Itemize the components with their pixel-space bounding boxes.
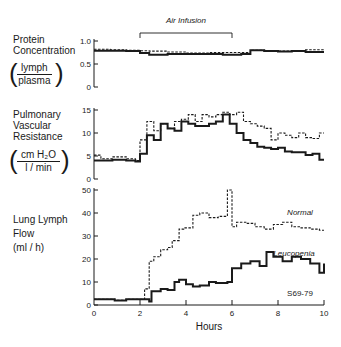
middle-leucopenia-line xyxy=(94,115,324,162)
bottom-ytick-label: 10 xyxy=(82,278,91,287)
xtick-label: 2 xyxy=(138,309,143,318)
tick-labels: 00.51.0051015010203040500246810 xyxy=(80,37,329,318)
air-infusion-label: Air Infusion xyxy=(165,16,207,25)
middle-ytick-label: 5 xyxy=(87,152,92,161)
top-leucopenia-line xyxy=(94,50,324,55)
chart-canvas: 00.51.0051015010203040500246810 Air Infu… xyxy=(0,0,341,347)
middle-ytick-label: 10 xyxy=(82,129,91,138)
bottom-ytick-label: 50 xyxy=(82,186,91,195)
air-infusion-bracket xyxy=(140,33,232,38)
bottom-ytick-label: 30 xyxy=(82,232,91,241)
xtick-label: 4 xyxy=(184,309,189,318)
leucopenia-legend-label: Leucopenia xyxy=(273,249,315,258)
bottom-ytick-label: 20 xyxy=(82,255,91,264)
xtick-label: 8 xyxy=(276,309,281,318)
series-lines xyxy=(94,49,324,301)
bottom-ytick-label: 40 xyxy=(82,209,91,218)
xtick-label: 10 xyxy=(320,309,329,318)
x-axis-title: Hours xyxy=(196,321,223,332)
axes xyxy=(94,39,324,305)
xtick-label: 0 xyxy=(92,309,97,318)
top-ytick-label: 0.5 xyxy=(80,60,92,69)
middle-ytick-label: 0 xyxy=(87,175,92,184)
top-ytick-label: 0 xyxy=(87,83,92,92)
middle-normal-line xyxy=(94,112,324,160)
figure-id: S69-79 xyxy=(287,289,313,298)
middle-ytick-label: 15 xyxy=(82,106,91,115)
top-ytick-label: 1.0 xyxy=(80,37,92,46)
xtick-label: 6 xyxy=(230,309,235,318)
normal-legend-label: Normal xyxy=(287,208,313,217)
